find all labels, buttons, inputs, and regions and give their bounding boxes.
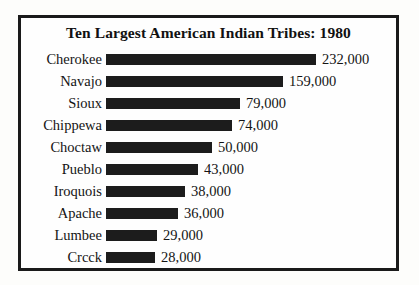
chart-frame: Ten Largest American Indian Tribes: 1980… bbox=[18, 15, 399, 271]
bar-track: 36,000 bbox=[106, 204, 396, 226]
chart-row: Chippewa 74,000 bbox=[21, 116, 396, 138]
category-label: Apache bbox=[21, 205, 102, 222]
value-label: 159,000 bbox=[289, 73, 336, 90]
bar-track: 29,000 bbox=[106, 226, 396, 248]
value-label: 36,000 bbox=[184, 205, 224, 222]
scanned-page-background: Ten Largest American Indian Tribes: 1980… bbox=[0, 0, 419, 285]
bar-track: 79,000 bbox=[106, 94, 396, 116]
bar bbox=[106, 230, 157, 241]
bar bbox=[106, 208, 178, 219]
chart-row: Cherokee 232,000 bbox=[21, 50, 396, 72]
category-label: Crcck bbox=[21, 249, 102, 266]
bar-track: 159,000 bbox=[106, 72, 396, 94]
category-label: Pueblo bbox=[21, 161, 102, 178]
bar-track: 74,000 bbox=[106, 116, 396, 138]
bar-track: 38,000 bbox=[106, 182, 396, 204]
chart-row: Pueblo 43,000 bbox=[21, 160, 396, 182]
bar bbox=[106, 98, 240, 109]
category-label: Iroquois bbox=[21, 183, 102, 200]
category-label: Cherokee bbox=[21, 51, 102, 68]
chart-title: Ten Largest American Indian Tribes: 1980 bbox=[21, 24, 396, 42]
category-label: Chippewa bbox=[21, 117, 102, 134]
category-label: Lumbee bbox=[21, 227, 102, 244]
category-label: Navajo bbox=[21, 73, 102, 90]
value-label: 232,000 bbox=[322, 51, 369, 68]
value-label: 74,000 bbox=[238, 117, 278, 134]
value-label: 38,000 bbox=[191, 183, 231, 200]
bar bbox=[106, 142, 212, 153]
bar bbox=[106, 164, 198, 175]
value-label: 29,000 bbox=[163, 227, 203, 244]
bar bbox=[106, 252, 155, 263]
bar bbox=[106, 186, 185, 197]
bar-track: 43,000 bbox=[106, 160, 396, 182]
value-label: 79,000 bbox=[246, 95, 286, 112]
bar-chart-plot-area: Cherokee 232,000 Navajo 159,000 Sioux 79… bbox=[21, 50, 396, 270]
chart-row: Sioux 79,000 bbox=[21, 94, 396, 116]
bar-track: 50,000 bbox=[106, 138, 396, 160]
value-label: 28,000 bbox=[161, 249, 201, 266]
bar bbox=[106, 120, 232, 131]
bar bbox=[106, 76, 283, 87]
chart-row: Navajo 159,000 bbox=[21, 72, 396, 94]
bar-track: 232,000 bbox=[106, 50, 396, 72]
value-label: 43,000 bbox=[204, 161, 244, 178]
value-label: 50,000 bbox=[218, 139, 258, 156]
chart-row: Crcck 28,000 bbox=[21, 248, 396, 270]
chart-row: Iroquois 38,000 bbox=[21, 182, 396, 204]
bar-track: 28,000 bbox=[106, 248, 396, 270]
category-label: Sioux bbox=[21, 95, 102, 112]
category-label: Choctaw bbox=[21, 139, 102, 156]
bar bbox=[106, 54, 316, 65]
chart-row: Apache 36,000 bbox=[21, 204, 396, 226]
chart-row: Choctaw 50,000 bbox=[21, 138, 396, 160]
chart-row: Lumbee 29,000 bbox=[21, 226, 396, 248]
